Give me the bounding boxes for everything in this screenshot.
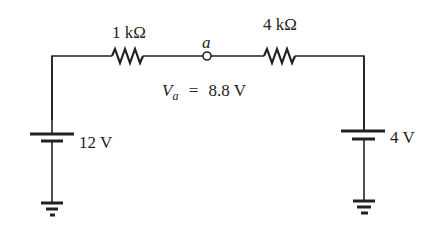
wire-right-top xyxy=(295,56,364,130)
circuit-diagram xyxy=(0,0,438,235)
va-annotation: Va = 8.8 V xyxy=(162,82,246,99)
va-equals: = xyxy=(189,81,199,100)
battery-12v-label: 12 V xyxy=(79,134,112,151)
resistor-1k xyxy=(112,49,143,63)
va-value: 8.8 V xyxy=(208,81,245,100)
battery-4v-label: 4 V xyxy=(390,129,415,146)
node-a xyxy=(203,52,211,60)
va-subscript: a xyxy=(172,89,178,103)
va-symbol: V xyxy=(162,81,172,100)
wire-left-top xyxy=(52,56,112,120)
resistor-1k-label: 1 kΩ xyxy=(112,24,146,41)
resistor-4k-label: 4 kΩ xyxy=(263,16,297,33)
node-a-label: a xyxy=(202,34,211,51)
resistor-4k xyxy=(264,49,295,63)
